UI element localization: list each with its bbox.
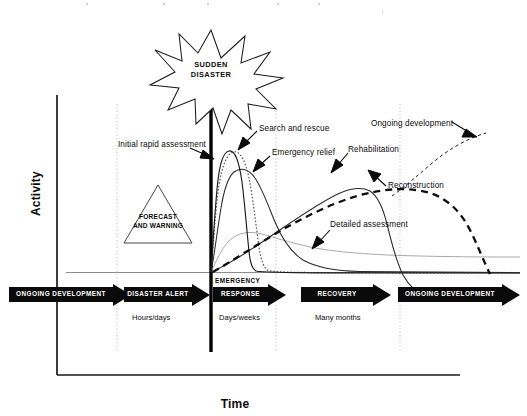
forecast-warning-line2: AND WARNING — [113, 222, 203, 231]
curve-reconstruction — [213, 189, 490, 274]
phase-duration-disaster-alert: Hours/days — [132, 313, 170, 322]
phase-duration-recovery: Many months — [315, 313, 361, 322]
phase-arrow-bar: RECOVERY — [301, 287, 373, 302]
sudden-disaster-line2: DISASTER — [151, 70, 271, 80]
phase-arrow-head — [192, 284, 210, 306]
phase-label-recovery: RECOVERY — [317, 291, 356, 297]
phase-arrow-bar: ONGOING DEVELOPMENT — [9, 287, 113, 302]
curve-label-search-and-rescue: Search and rescue — [259, 124, 329, 133]
curve-label-detailed-assessment: Detailed assessment — [330, 220, 408, 229]
phase-label-emergency-response-above: EMERGENCY — [215, 277, 260, 284]
curve-label-ongoing-development: Ongoing development — [371, 119, 453, 128]
phase-arrow-ongoing-development-pre[interactable]: ONGOING DEVELOPMENT — [9, 287, 131, 302]
curve-label-rehabilitation: Rehabilitation — [348, 145, 399, 154]
phase-arrow-bar: ONGOING DEVELOPMENT — [398, 287, 502, 302]
x-axis-title: Time — [190, 398, 280, 411]
curve-label-initial-rapid-assessment: Initial rapid assessment — [118, 140, 206, 149]
phase-duration-emergency-response: Days/weeks — [219, 313, 260, 322]
curve-label-emergency-relief: Emergency relief — [272, 148, 335, 157]
forecast-warning-line1: FORECAST — [113, 213, 203, 222]
leader-arrowhead-ongoing-development — [462, 129, 477, 137]
sudden-disaster-line1: SUDDEN — [151, 60, 271, 70]
sudden-disaster-label: SUDDEN DISASTER — [151, 60, 271, 80]
figure-canvas: SUDDEN DISASTER FORECAST AND WARNING Ini… — [0, 0, 527, 416]
phase-arrow-head — [268, 284, 286, 306]
phase-label-ongoing-development-post: ONGOING DEVELOPMENT — [405, 291, 495, 297]
phase-label-disaster-alert: DISASTER ALERT — [127, 291, 188, 297]
phase-arrow-ongoing-development-post[interactable]: ONGOING DEVELOPMENT — [398, 287, 520, 302]
phase-arrow-bar: DISASTER ALERT — [124, 287, 192, 302]
y-axis-title: Activity — [30, 154, 43, 234]
forecast-warning-label: FORECAST AND WARNING — [113, 213, 203, 231]
curve-label-reconstruction: Reconstruction — [388, 181, 444, 190]
phase-arrow-recovery[interactable]: RECOVERY — [301, 287, 391, 302]
phase-arrow-head — [502, 284, 520, 306]
axes-group — [57, 95, 520, 375]
phase-arrow-emergency-response[interactable]: RESPONSE — [213, 287, 286, 302]
leader-arrowhead-search-and-rescue — [238, 137, 250, 150]
leader-arrowhead-emergency-relief — [253, 159, 265, 172]
phase-arrow-disaster-alert[interactable]: DISASTER ALERT — [124, 287, 210, 302]
phase-arrow-bar: RESPONSE — [213, 287, 268, 302]
phase-arrow-head — [373, 284, 391, 306]
sudden-disaster-starburst — [150, 30, 283, 134]
phase-label-emergency-response: RESPONSE — [221, 291, 260, 297]
phase-label-ongoing-development-pre: ONGOING DEVELOPMENT — [16, 291, 106, 297]
